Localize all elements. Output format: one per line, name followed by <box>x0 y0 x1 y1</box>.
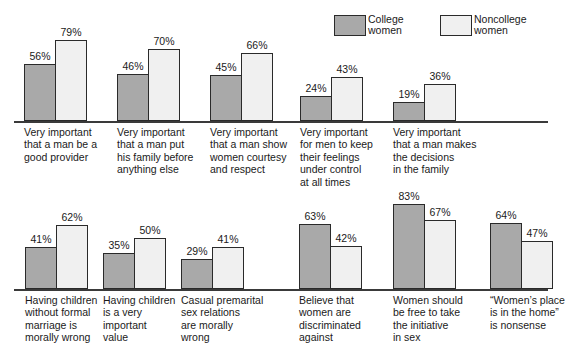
bar-value-noncollege-8: 42% <box>335 232 356 244</box>
bar-value-college-6: 35% <box>108 239 129 251</box>
bar-group-8: 63% 42% <box>299 170 365 289</box>
bar-value-noncollege-4: 36% <box>429 70 450 82</box>
bar-noncollege-8: 42% <box>330 246 362 289</box>
category-label-7: Casual premarital sex relations are mora… <box>181 294 273 344</box>
category-label-10: “Women’s place is in the home” is nonsen… <box>490 294 569 331</box>
bar-college-4: 19% <box>393 102 425 121</box>
bar-college-1: 46% <box>117 74 149 121</box>
plot-area-top: 56% 79% 46% 70% 45% 66% 24% <box>0 0 564 123</box>
bar-college-10: 64% <box>490 223 522 289</box>
bar-value-noncollege-6: 50% <box>139 224 160 236</box>
bar-value-noncollege-5: 62% <box>61 211 82 223</box>
bar-group-6: 35% 50% <box>103 170 169 289</box>
plot-area-bottom: 41% 62% 35% 50% 29% 41% 63% <box>0 168 564 291</box>
bar-value-college-4: 19% <box>398 88 419 100</box>
bar-group-4: 19% 36% <box>393 2 459 121</box>
bar-college-7: 29% <box>181 259 213 289</box>
bar-noncollege-4: 36% <box>424 84 456 121</box>
bar-group-2: 45% 66% <box>210 2 276 121</box>
chart-panel-bottom-row: 41% 62% 35% 50% 29% 41% 63% <box>0 168 564 360</box>
category-label-9: Women should be free to take the initiat… <box>393 294 485 344</box>
bar-value-college-5: 41% <box>30 233 51 245</box>
bar-college-2: 45% <box>210 75 242 121</box>
bar-value-college-2: 45% <box>215 61 236 73</box>
baseline-axis-bottom <box>14 289 548 291</box>
bar-value-noncollege-3: 43% <box>336 63 357 75</box>
chart-panel-top-row: 56% 79% 46% 70% 45% 66% 24% <box>0 0 564 190</box>
bar-noncollege-6: 50% <box>134 238 166 289</box>
bar-value-college-1: 46% <box>122 60 143 72</box>
bar-group-9: 83% 67% <box>393 170 459 289</box>
bar-value-noncollege-9: 67% <box>429 206 450 218</box>
bar-college-6: 35% <box>103 253 135 289</box>
bar-group-10: 64% 47% <box>490 170 556 289</box>
bar-group-3: 24% 43% <box>300 2 366 121</box>
bar-group-5: 41% 62% <box>25 170 91 289</box>
bar-group-1: 46% 70% <box>117 2 183 121</box>
category-label-0: Very important that a man be a good prov… <box>24 126 116 163</box>
bar-noncollege-7: 41% <box>212 247 244 289</box>
bar-noncollege-2: 66% <box>241 53 273 121</box>
category-labels-bottom: Having children without formal marriage … <box>0 294 564 358</box>
bar-noncollege-10: 47% <box>521 241 553 289</box>
bar-value-college-8: 63% <box>304 210 325 222</box>
bar-noncollege-3: 43% <box>331 77 363 121</box>
bar-value-college-10: 64% <box>495 209 516 221</box>
bar-value-noncollege-10: 47% <box>526 227 547 239</box>
bar-noncollege-1: 70% <box>148 49 180 121</box>
bar-college-3: 24% <box>300 96 332 121</box>
bar-value-noncollege-7: 41% <box>217 233 238 245</box>
bar-value-college-0: 56% <box>29 50 50 62</box>
bar-group-7: 29% 41% <box>181 170 247 289</box>
bar-noncollege-0: 79% <box>55 40 87 121</box>
bar-noncollege-5: 62% <box>56 225 88 289</box>
bar-group-0: 56% 79% <box>24 2 90 121</box>
bar-value-college-9: 83% <box>398 190 419 202</box>
bar-value-college-7: 29% <box>186 245 207 257</box>
bar-value-noncollege-1: 70% <box>153 35 174 47</box>
category-label-8: Believe that women are discriminated aga… <box>299 294 391 344</box>
bar-value-noncollege-0: 79% <box>60 26 81 38</box>
bar-college-5: 41% <box>25 247 57 289</box>
bar-noncollege-9: 67% <box>424 220 456 289</box>
bar-college-8: 63% <box>299 224 331 289</box>
bar-college-0: 56% <box>24 64 56 121</box>
bar-value-college-3: 24% <box>305 82 326 94</box>
bar-value-noncollege-2: 66% <box>246 39 267 51</box>
baseline-axis-top <box>14 121 548 123</box>
bar-college-9: 83% <box>393 204 425 289</box>
